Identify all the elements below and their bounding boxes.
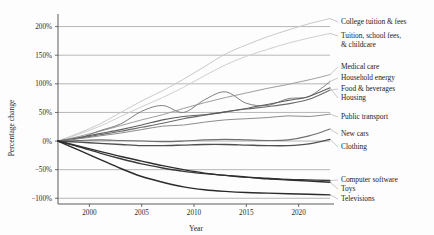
y-tick-label: 0% (42, 138, 52, 146)
x-tick-labels: 20002005201020152020 (82, 209, 306, 217)
x-tick-label: 2005 (135, 209, 150, 217)
series-lines (58, 19, 330, 195)
series-label-tuition-childcare: & childcare (341, 40, 376, 49)
series-label-toys: Toys (341, 184, 355, 193)
y-tick-label: 50% (39, 109, 52, 117)
series-line (58, 82, 330, 142)
series-label-household-energy: Household energy (341, 73, 395, 82)
y-tick-label: −100% (31, 195, 52, 203)
series-label-clothing: Clothing (341, 142, 367, 151)
series-line (58, 141, 330, 182)
y-tick-label: 150% (35, 52, 52, 60)
x-tick-label: 2010 (187, 209, 202, 217)
series-line (58, 19, 330, 141)
x-axis-title: Year (189, 224, 203, 233)
y-axis-title: Percentage change (7, 99, 16, 156)
x-tick-label: 2020 (291, 209, 306, 217)
line-chart-plot: 200%150%100%50%0%−50%−100% 2000200520102… (0, 0, 434, 235)
series-label-televisions: Televisions (341, 194, 375, 203)
series-label-medical-care: Medical care (341, 62, 380, 71)
series-label-public-transport: Public transport (341, 112, 389, 121)
x-tick-label: 2015 (239, 209, 254, 217)
y-tick-label: 200% (35, 23, 52, 31)
series-labels: College tuition & feesTuition, school fe… (341, 17, 407, 203)
series-label-college-tuition: College tuition & fees (341, 17, 407, 26)
y-tick-label: −50% (35, 166, 52, 174)
series-line (58, 141, 330, 195)
chart-container: 200%150%100%50%0%−50%−100% 2000200520102… (0, 0, 434, 235)
label-leader-lines (330, 19, 338, 199)
series-label-computer-software: Computer software (341, 175, 399, 184)
x-tick-label: 2000 (82, 209, 97, 217)
series-line (58, 88, 330, 141)
series-label-new-cars: New cars (341, 129, 369, 138)
y-tick-label: 100% (35, 80, 52, 88)
y-tick-labels: 200%150%100%50%0%−50%−100% (31, 23, 52, 203)
series-line (58, 114, 330, 141)
series-line (58, 141, 330, 180)
series-label-food-beverages: Food & beverages (341, 84, 395, 93)
series-label-housing: Housing (341, 93, 366, 102)
